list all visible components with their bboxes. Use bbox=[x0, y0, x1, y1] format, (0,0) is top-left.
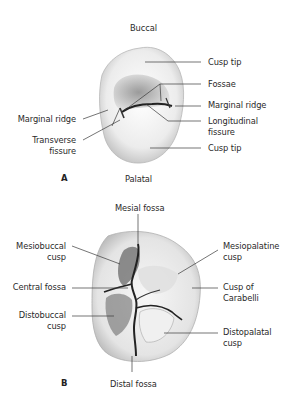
label-longitudinal-fissure-line2: fissure bbox=[208, 127, 235, 138]
label-distopalatal-cusp-line2: cusp bbox=[223, 338, 242, 349]
label-mesiobuccal-cusp-line1: Mesiobuccal bbox=[16, 241, 66, 252]
label-distobuccal-cusp-line2: cusp bbox=[47, 321, 66, 332]
label-palatal: Palatal bbox=[125, 174, 152, 185]
panel-letter-b: B bbox=[61, 378, 67, 388]
label-cusp-tip-top: Cusp tip bbox=[208, 57, 241, 68]
label-mesial-fossa: Mesial fossa bbox=[115, 203, 164, 214]
label-fossae: Fossae bbox=[208, 79, 236, 90]
figure-b-molar-occlusal: Mesial fossa Mesiobuccal cusp Central fo… bbox=[0, 200, 299, 406]
label-mesiopalatine-cusp-line1: Mesiopalatine bbox=[223, 241, 279, 252]
label-transverse-fissure-line1: Transverse bbox=[32, 135, 76, 146]
label-central-fossa: Central fossa bbox=[13, 282, 66, 293]
label-marginal-ridge-right: Marginal ridge bbox=[208, 100, 266, 111]
label-distopalatal-cusp-line1: Distopalatal bbox=[223, 327, 272, 338]
label-buccal: Buccal bbox=[130, 23, 157, 34]
label-mesiopalatine-cusp-line2: cusp bbox=[223, 252, 242, 263]
label-distal-fossa: Distal fossa bbox=[110, 379, 157, 390]
label-transverse-fissure-line2: fissure bbox=[49, 146, 76, 157]
label-cusp-of-carabelli-line2: Carabelli bbox=[223, 293, 259, 304]
label-longitudinal-fissure-line1: Longitudinal bbox=[208, 116, 258, 127]
label-cusp-tip-bottom: Cusp tip bbox=[208, 143, 241, 154]
label-marginal-ridge-left: Marginal ridge bbox=[18, 114, 76, 125]
label-distobuccal-cusp-line1: Distobuccal bbox=[19, 310, 66, 321]
label-cusp-of-carabelli-line1: Cusp of bbox=[223, 282, 254, 293]
label-mesiobuccal-cusp-line2: cusp bbox=[47, 252, 66, 263]
panel-letter-a: A bbox=[61, 173, 68, 183]
figure-a-premolar-occlusal: Buccal Cusp tip Fossae Marginal ridge Lo… bbox=[0, 0, 299, 200]
